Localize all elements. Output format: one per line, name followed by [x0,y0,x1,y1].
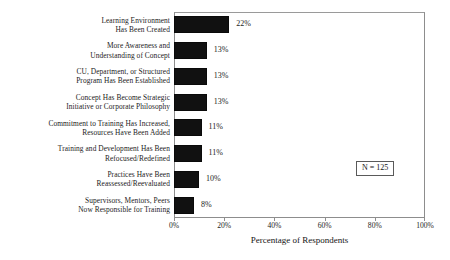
category-label-line: Initiative or Corporate Philosophy [0,102,170,111]
category-label-line: Learning Environment [0,16,170,25]
bars-layer: 22%13%13%13%11%11%10%8% [174,12,425,218]
category-label-line: Supervisors, Mentors, Peers [0,196,170,205]
bar-value-label: 8% [201,200,212,210]
bar [174,68,207,85]
category-label-line: Commitment to Training Has Increased, [0,119,170,128]
bar [174,197,194,214]
bar-row: 8% [174,197,425,214]
bar-row: 22% [174,16,425,33]
bar-value-label: 11% [209,148,223,158]
bar-row: 13% [174,42,425,59]
category-label-line: Program Has Been Established [0,76,170,85]
bar-value-label: 22% [236,19,251,29]
category-label-line: More Awareness and [0,41,170,50]
category-label: Practices Have BeenReassessed/Reevaluate… [0,170,172,188]
x-axis-tick-label: 100% [405,220,445,231]
category-label-line: Understanding of Concept [0,51,170,60]
category-label: Training and Development Has BeenRefocus… [0,144,172,162]
bar [174,119,202,136]
bar-row: 13% [174,68,425,85]
x-axis-tick-label: 80% [355,220,395,231]
bar [174,145,202,162]
category-label-line: Practices Have Been [0,170,170,179]
x-axis-tick-label: 0% [154,220,194,231]
category-label-line: Has Been Created [0,25,170,34]
x-axis-tick-label: 20% [204,220,244,231]
x-axis-title: Percentage of Respondents [174,234,425,246]
x-axis-tick-labels: 0%20%40%60%80%100% [174,220,425,232]
horizontal-bar-chart: Learning EnvironmentHas Been CreatedMore… [0,0,450,260]
bar [174,42,207,59]
category-label-line: Resources Have Been Added [0,128,170,137]
category-label: Concept Has Become StrategicInitiative o… [0,93,172,111]
bar-value-label: 13% [214,45,229,55]
category-label-line: Concept Has Become Strategic [0,93,170,102]
bar [174,171,199,188]
category-axis-labels: Learning EnvironmentHas Been CreatedMore… [0,12,172,218]
category-label: Learning EnvironmentHas Been Created [0,16,172,34]
category-label-line: Now Responsible for Training [0,205,170,214]
bar-row: 13% [174,94,425,111]
x-axis-tick-label: 40% [254,220,294,231]
category-label-line: CU, Department, or Structured [0,67,170,76]
sample-size-annotation: N = 125 [356,161,394,176]
bar-row: 11% [174,119,425,136]
x-axis-tick-label: 60% [305,220,345,231]
bar [174,16,229,33]
bar-value-label: 13% [214,97,229,107]
category-label-line: Reassessed/Reevaluated [0,179,170,188]
category-label-line: Refocused/Redefined [0,154,170,163]
bar-row: 11% [174,145,425,162]
bar [174,94,207,111]
category-label: Commitment to Training Has Increased,Res… [0,119,172,137]
bar-value-label: 13% [214,71,229,81]
category-label: Supervisors, Mentors, PeersNow Responsib… [0,196,172,214]
category-label-line: Training and Development Has Been [0,144,170,153]
category-label: More Awareness andUnderstanding of Conce… [0,41,172,59]
bar-value-label: 10% [206,174,221,184]
bar-value-label: 11% [209,122,223,132]
category-label: CU, Department, or StructuredProgram Has… [0,67,172,85]
